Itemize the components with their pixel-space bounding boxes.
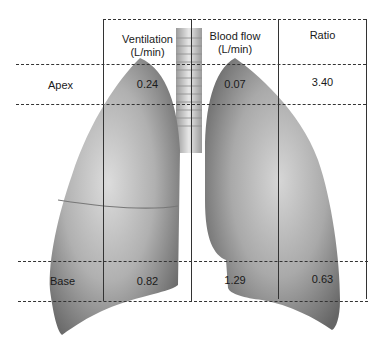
header-ventilation-line1: Ventilation bbox=[104, 33, 191, 46]
header-ventilation: Ventilation (L/min) bbox=[104, 33, 191, 59]
lung-vq-diagram: Ventilation (L/min) Blood flow (L/min) R… bbox=[0, 0, 379, 343]
base-ventilation: 0.82 bbox=[104, 275, 191, 288]
header-ventilation-line2: (L/min) bbox=[104, 46, 191, 59]
table-top-border bbox=[103, 19, 366, 20]
base-row-top bbox=[18, 261, 368, 262]
header-blood-flow: Blood flow (L/min) bbox=[192, 30, 278, 56]
column-line-4 bbox=[366, 19, 367, 299]
row-label-apex: Apex bbox=[48, 79, 73, 91]
column-line-1 bbox=[103, 19, 104, 301]
apex-ventilation: 0.24 bbox=[104, 78, 191, 91]
column-line-2 bbox=[191, 19, 192, 301]
right-side-lung bbox=[205, 58, 340, 330]
row-label-base: Base bbox=[50, 275, 75, 287]
header-ratio: Ratio bbox=[279, 29, 366, 42]
header-bloodflow-line1: Blood flow bbox=[192, 30, 278, 43]
apex-blood-flow: 0.07 bbox=[192, 78, 278, 91]
header-bloodflow-line2: (L/min) bbox=[192, 43, 278, 56]
left-side-lung bbox=[50, 58, 180, 335]
base-blood-flow: 1.29 bbox=[192, 274, 278, 287]
base-ratio: 0.63 bbox=[279, 273, 366, 286]
column-line-3 bbox=[278, 19, 279, 299]
apex-ratio: 3.40 bbox=[279, 76, 366, 89]
base-row-bottom bbox=[18, 301, 368, 302]
